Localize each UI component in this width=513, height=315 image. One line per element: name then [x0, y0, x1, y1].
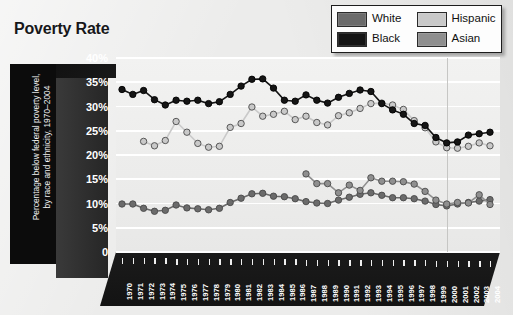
- marker-asian[interactable]: [433, 197, 439, 203]
- marker-black[interactable]: [184, 98, 190, 104]
- marker-white[interactable]: [292, 196, 298, 202]
- marker-black[interactable]: [411, 120, 417, 126]
- marker-asian[interactable]: [465, 200, 471, 206]
- marker-black[interactable]: [368, 88, 374, 94]
- marker-white[interactable]: [205, 207, 211, 213]
- marker-black[interactable]: [400, 111, 406, 117]
- marker-white[interactable]: [119, 201, 125, 207]
- marker-black[interactable]: [151, 97, 157, 103]
- marker-hispanic[interactable]: [454, 145, 460, 151]
- marker-hispanic[interactable]: [314, 119, 320, 125]
- marker-hispanic[interactable]: [292, 116, 298, 122]
- legend-item-asian[interactable]: Asian: [417, 32, 497, 47]
- marker-black[interactable]: [238, 83, 244, 89]
- marker-asian[interactable]: [389, 178, 395, 184]
- marker-black[interactable]: [487, 129, 493, 135]
- marker-hispanic[interactable]: [151, 143, 157, 149]
- marker-asian[interactable]: [400, 179, 406, 185]
- marker-hispanic[interactable]: [324, 122, 330, 128]
- marker-hispanic[interactable]: [303, 113, 309, 119]
- marker-black[interactable]: [389, 107, 395, 113]
- marker-hispanic[interactable]: [487, 143, 493, 149]
- marker-hispanic[interactable]: [335, 113, 341, 119]
- marker-hispanic[interactable]: [368, 100, 374, 106]
- marker-black[interactable]: [444, 140, 450, 146]
- marker-asian[interactable]: [335, 190, 341, 196]
- marker-white[interactable]: [324, 200, 330, 206]
- marker-black[interactable]: [130, 91, 136, 97]
- marker-asian[interactable]: [314, 180, 320, 186]
- marker-black[interactable]: [270, 85, 276, 91]
- marker-white[interactable]: [346, 194, 352, 200]
- marker-asian[interactable]: [357, 187, 363, 193]
- marker-black[interactable]: [216, 99, 222, 105]
- marker-black[interactable]: [346, 90, 352, 96]
- marker-hispanic[interactable]: [162, 137, 168, 143]
- marker-hispanic[interactable]: [184, 129, 190, 135]
- legend-item-white[interactable]: White: [337, 12, 417, 27]
- marker-black[interactable]: [227, 91, 233, 97]
- marker-hispanic[interactable]: [249, 104, 255, 110]
- marker-hispanic[interactable]: [195, 140, 201, 146]
- marker-black[interactable]: [465, 132, 471, 138]
- marker-asian[interactable]: [487, 201, 493, 207]
- marker-white[interactable]: [270, 193, 276, 199]
- marker-white[interactable]: [238, 195, 244, 201]
- marker-black[interactable]: [357, 87, 363, 93]
- marker-white[interactable]: [184, 205, 190, 211]
- marker-white[interactable]: [249, 191, 255, 197]
- marker-black[interactable]: [335, 94, 341, 100]
- marker-black[interactable]: [422, 122, 428, 128]
- marker-asian[interactable]: [411, 181, 417, 187]
- marker-black[interactable]: [324, 100, 330, 106]
- marker-hispanic[interactable]: [270, 111, 276, 117]
- marker-black[interactable]: [476, 131, 482, 137]
- legend-item-black[interactable]: Black: [337, 32, 417, 47]
- marker-white[interactable]: [411, 196, 417, 202]
- marker-asian[interactable]: [303, 171, 309, 177]
- marker-white[interactable]: [303, 198, 309, 204]
- marker-asian[interactable]: [346, 182, 352, 188]
- marker-asian[interactable]: [379, 178, 385, 184]
- marker-black[interactable]: [454, 139, 460, 145]
- marker-hispanic[interactable]: [205, 144, 211, 150]
- marker-white[interactable]: [379, 192, 385, 198]
- marker-hispanic[interactable]: [173, 118, 179, 124]
- marker-hispanic[interactable]: [238, 120, 244, 126]
- marker-white[interactable]: [260, 190, 266, 196]
- marker-hispanic[interactable]: [476, 140, 482, 146]
- marker-hispanic[interactable]: [227, 124, 233, 130]
- marker-white[interactable]: [476, 198, 482, 204]
- marker-asian[interactable]: [324, 180, 330, 186]
- marker-white[interactable]: [173, 202, 179, 208]
- marker-white[interactable]: [314, 200, 320, 206]
- legend-item-hispanic[interactable]: Hispanic: [417, 12, 497, 27]
- marker-black[interactable]: [249, 76, 255, 82]
- marker-black[interactable]: [119, 86, 125, 92]
- marker-white[interactable]: [130, 201, 136, 207]
- marker-white[interactable]: [281, 194, 287, 200]
- marker-hispanic[interactable]: [346, 110, 352, 116]
- marker-asian[interactable]: [454, 199, 460, 205]
- marker-asian[interactable]: [444, 201, 450, 207]
- marker-white[interactable]: [140, 205, 146, 211]
- marker-hispanic[interactable]: [216, 143, 222, 149]
- marker-white[interactable]: [216, 205, 222, 211]
- marker-hispanic[interactable]: [281, 108, 287, 114]
- marker-hispanic[interactable]: [465, 143, 471, 149]
- marker-black[interactable]: [173, 97, 179, 103]
- marker-black[interactable]: [303, 92, 309, 98]
- marker-white[interactable]: [368, 190, 374, 196]
- marker-black[interactable]: [281, 97, 287, 103]
- marker-white[interactable]: [227, 199, 233, 205]
- marker-black[interactable]: [433, 134, 439, 140]
- marker-black[interactable]: [162, 102, 168, 108]
- marker-black[interactable]: [379, 100, 385, 106]
- marker-white[interactable]: [335, 197, 341, 203]
- marker-black[interactable]: [140, 87, 146, 93]
- marker-black[interactable]: [314, 97, 320, 103]
- marker-hispanic[interactable]: [260, 113, 266, 119]
- marker-asian[interactable]: [422, 188, 428, 194]
- marker-black[interactable]: [260, 76, 266, 82]
- marker-asian[interactable]: [476, 192, 482, 198]
